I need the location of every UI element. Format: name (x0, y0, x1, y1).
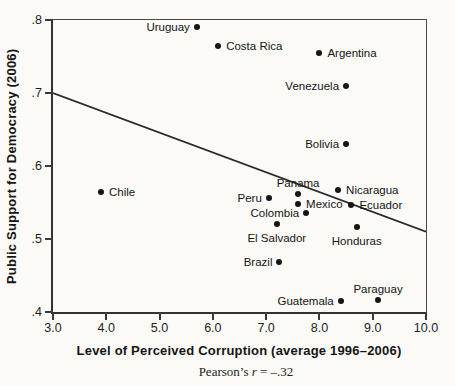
x-tick-mark-3-0 (52, 312, 54, 320)
point-label-venezuela: Venezuela (285, 80, 339, 92)
data-point-guatemala (338, 298, 344, 304)
pearson-caption: Pearson’s r = –.32 (51, 364, 441, 380)
x-tick-mark-7-0 (265, 312, 267, 320)
point-label-argentina: Argentina (327, 47, 376, 59)
point-label-bolivia: Bolivia (305, 138, 339, 150)
point-label-paraguay: Paraguay (353, 283, 402, 295)
y-tick-label-5: .5 (32, 232, 42, 246)
point-label-chile: Chile (109, 186, 135, 198)
x-tick-mark-8-0 (318, 312, 320, 320)
x-tick-label-9-0: 9.0 (364, 321, 381, 335)
x-axis-title: Level of Perceived Corruption (average 1… (51, 343, 427, 358)
y-tick-mark-8 (45, 19, 53, 21)
x-tick-label-5-0: 5.0 (151, 321, 168, 335)
y-tick-label-8: .8 (32, 13, 42, 27)
point-label-honduras: Honduras (332, 235, 382, 247)
data-point-honduras (354, 224, 360, 230)
data-point-chile (98, 189, 104, 195)
scatter-figure: Public Support for Democracy (2006) .4.5… (0, 0, 455, 386)
x-tick-mark-10-0 (425, 312, 427, 320)
point-label-mexico: Mexico (306, 198, 342, 210)
data-point-panama (295, 191, 301, 197)
point-label-costa-rica: Costa Rica (226, 40, 282, 52)
data-point-peru (266, 195, 272, 201)
x-tick-label-7-0: 7.0 (257, 321, 274, 335)
data-point-ecuador (348, 202, 354, 208)
point-label-brazil: Brazil (244, 256, 273, 268)
y-tick-mark-5 (45, 238, 53, 240)
data-point-nicaragua (335, 187, 341, 193)
y-axis-title: Public Support for Democracy (2006) (4, 19, 22, 314)
x-tick-mark-9-0 (372, 312, 374, 320)
point-label-uruguay: Uruguay (146, 21, 189, 33)
point-label-nicaragua: Nicaragua (346, 184, 398, 196)
caption-value: = –.32 (257, 364, 294, 379)
data-point-brazil (276, 259, 282, 265)
plot-area: .4.5.6.7.83.04.05.06.07.08.09.010.0Urugu… (51, 19, 427, 314)
x-tick-label-6-0: 6.0 (204, 321, 221, 335)
y-tick-label-7: .7 (32, 86, 42, 100)
point-label-ecuador: Ecuador (359, 199, 402, 211)
data-point-uruguay (194, 24, 200, 30)
trend-line-layer (53, 20, 426, 312)
x-tick-mark-5-0 (159, 312, 161, 320)
data-point-bolivia (343, 141, 349, 147)
point-label-peru: Peru (238, 192, 262, 204)
data-point-colombia (303, 210, 309, 216)
x-tick-mark-4-0 (105, 312, 107, 320)
y-tick-mark-7 (45, 92, 53, 94)
x-tick-label-8-0: 8.0 (311, 321, 328, 335)
data-point-paraguay (375, 297, 381, 303)
data-point-costa-rica (215, 43, 221, 49)
y-tick-mark-6 (45, 165, 53, 167)
x-tick-label-10-0: 10.0 (414, 321, 438, 335)
x-tick-mark-6-0 (212, 312, 214, 320)
x-tick-label-3-0: 3.0 (44, 321, 61, 335)
point-label-panama: Panama (277, 177, 320, 189)
point-label-guatemala: Guatemala (277, 295, 333, 307)
data-point-venezuela (343, 83, 349, 89)
trend-line (53, 93, 426, 232)
y-tick-label-6: .6 (32, 159, 42, 173)
x-tick-label-4-0: 4.0 (98, 321, 115, 335)
point-label-el-salvador: El Salvador (247, 232, 306, 244)
caption-prefix: Pearson’s (199, 364, 252, 379)
data-point-el-salvador (274, 221, 280, 227)
point-label-colombia: Colombia (251, 207, 300, 219)
data-point-argentina (316, 50, 322, 56)
y-tick-label-4: .4 (32, 305, 42, 319)
